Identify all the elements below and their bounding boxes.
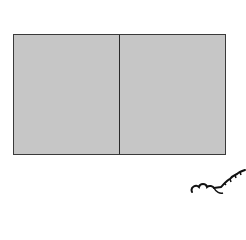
- left-half-shaded: [14, 35, 120, 154]
- divided-rectangle: [13, 34, 226, 155]
- right-half-shaded: [120, 35, 225, 154]
- cloud-squiggle-icon: [188, 168, 246, 197]
